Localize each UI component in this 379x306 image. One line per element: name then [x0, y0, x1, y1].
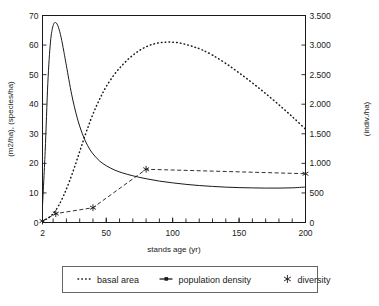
x-axis-tick-label: 100 — [166, 228, 180, 238]
y-axis-right-tick-label: 2.500 — [310, 70, 332, 80]
y-axis-left-tick-label: 60 — [29, 40, 39, 50]
y-axis-right-tick-label: 3.000 — [310, 40, 332, 50]
legend-entries: basal areapopulation densitydiversity — [78, 275, 331, 285]
legend-label: basal area — [97, 275, 139, 285]
x-axis-label: stands age (yr) — [147, 245, 201, 254]
y-axis-right-tick-label: 1.000 — [310, 158, 332, 168]
legend-asterisk-icon — [284, 275, 291, 283]
plot-frame — [43, 16, 306, 223]
x-axis-tick-label: 50 — [102, 228, 112, 238]
y-axis-left-tick-label: 50 — [29, 70, 39, 80]
legend-square-marker-icon — [165, 277, 169, 281]
y-axis-right-label: (indiv./ha) — [362, 101, 371, 136]
diversity-marker — [53, 210, 59, 217]
legend-item-population-density[interactable]: population density — [160, 275, 252, 285]
x-axis-tick-label: 200 — [298, 228, 312, 238]
chart-legend: basal areapopulation densitydiversity — [63, 267, 331, 293]
data-series-layer — [40, 22, 309, 224]
legend-item-basal-area[interactable]: basal area — [78, 275, 139, 285]
x-axis-ticks: 250100150200 — [40, 218, 313, 238]
y-axis-left-tick-label: 10 — [29, 188, 39, 198]
y-axis-left-ticks: 010203040506070 — [29, 11, 46, 228]
x-axis-tick-label: 2 — [40, 228, 45, 238]
y-axis-left-tick-label: 20 — [29, 158, 39, 168]
y-axis-right-tick-label: 2.000 — [310, 99, 332, 109]
legend-item-diversity[interactable]: diversity — [284, 275, 331, 285]
y-axis-left-tick-label: 40 — [29, 99, 39, 109]
legend-label: population density — [179, 275, 252, 285]
y-axis-right-tick-label: 0 — [310, 218, 315, 228]
diversity-marker — [90, 204, 96, 211]
y-axis-left-label: (m2/ha), (species/ha) — [6, 81, 15, 157]
y-axis-left-tick-label: 70 — [29, 11, 39, 21]
diversity-marker — [40, 218, 46, 225]
y-axis-left-tick-label: 0 — [34, 218, 39, 228]
series-population-density — [43, 22, 306, 205]
y-axis-right-tick-label: 3.500 — [310, 11, 332, 21]
legend-label: diversity — [297, 275, 331, 285]
y-axis-left-tick-label: 30 — [29, 129, 39, 139]
y-axis-right-tick-label: 1.500 — [310, 129, 332, 139]
chart-figure: 010203040506070 05001.0001.5002.0002.500… — [0, 0, 379, 306]
series-diversity — [40, 166, 309, 225]
y-axis-right-tick-label: 500 — [310, 188, 324, 198]
x-axis-tick-label: 150 — [232, 228, 246, 238]
